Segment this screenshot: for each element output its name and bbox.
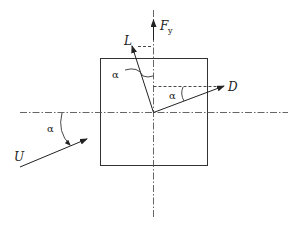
lift-label: L [123, 34, 132, 48]
lift-angle-arc [125, 69, 153, 77]
drag-label: D [227, 80, 238, 94]
velocity-label: U [14, 150, 25, 164]
drag-angle-label: α [169, 90, 176, 101]
force-diagram: F y L α D α U α [0, 0, 296, 230]
fy-subscript: y [167, 26, 173, 35]
lift-arrow [132, 46, 154, 113]
drag-arrow [154, 86, 225, 113]
velocity-angle-arc [61, 113, 70, 145]
lift-angle-label: α [112, 69, 119, 80]
velocity-arrow [20, 139, 87, 167]
velocity-angle-label: α [47, 123, 54, 134]
drag-angle-arc [182, 87, 184, 101]
